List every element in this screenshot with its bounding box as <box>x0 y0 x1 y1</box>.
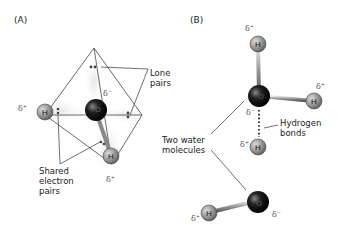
atom-hmid-letter: H <box>255 143 261 152</box>
charge-h-right: δ⁺ <box>316 82 325 91</box>
charge-h-left: δ⁺ <box>191 214 200 223</box>
atom-hleft-letter: H <box>206 209 212 218</box>
two-water-leader-bottom <box>211 150 246 190</box>
shared-electron-pairs-label: Shared electron pairs <box>39 166 74 196</box>
panel-b-label: (B) <box>190 15 203 25</box>
charge-h-top: δ⁺ <box>245 24 254 33</box>
hydrogen-bonds-label: Hydrogen bonds <box>280 118 321 138</box>
atom-o-letter: O <box>95 106 101 113</box>
two-water-molecules-label: Two water molecules <box>162 135 205 155</box>
atom-hright-letter: H <box>311 97 317 106</box>
hbond-leader <box>264 125 278 128</box>
atom-h2-letter: H <box>108 152 114 161</box>
panel-a-label: (A) <box>14 15 27 25</box>
charge-h1-a: δ⁺ <box>18 104 27 113</box>
charge-o-a: δ⁻ <box>103 89 112 98</box>
water-diagram: H H H H H H O O O <box>0 0 342 234</box>
atom-htop-letter: H <box>255 40 261 49</box>
charge-h-mid: δ⁺ <box>240 140 249 149</box>
atom-h1-letter: H <box>42 108 48 117</box>
lone-pairs-label: Lone pairs <box>150 68 171 88</box>
charge-h2-a: δ⁺ <box>106 175 115 184</box>
two-water-leader-top <box>211 101 244 134</box>
atom-otop-letter: O <box>258 93 264 100</box>
charge-o-bottom: δ⁻ <box>272 210 281 219</box>
charge-o-top: δ⁻ <box>246 108 255 117</box>
atom-obottom-letter: O <box>256 200 262 207</box>
